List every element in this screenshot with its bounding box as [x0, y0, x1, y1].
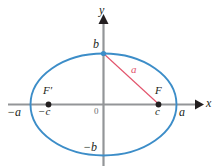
ellipse-diagram: y x 0 b −b −a a F′ −c F c a [0, 0, 218, 167]
origin-label: 0 [94, 107, 99, 116]
y-axis-label: y [99, 4, 104, 16]
right-focus-name-label: F [155, 85, 162, 96]
left-vertex-label: −a [7, 106, 21, 118]
semi-major-length-label: a [131, 64, 137, 75]
top-vertex-point [101, 51, 106, 56]
left-focus-name-label: F′ [43, 85, 52, 96]
right-vertex-label: a [179, 106, 185, 118]
right-focus-value-label: c [155, 106, 160, 117]
bottom-vertex-label: −b [83, 141, 97, 153]
x-axis-label: x [206, 97, 211, 109]
left-focus-value-label: −c [38, 106, 50, 117]
top-vertex-label: b [93, 38, 99, 50]
semi-major-segment [104, 54, 159, 105]
x-axis-arrowhead [195, 100, 204, 110]
diagram-canvas [0, 0, 218, 167]
